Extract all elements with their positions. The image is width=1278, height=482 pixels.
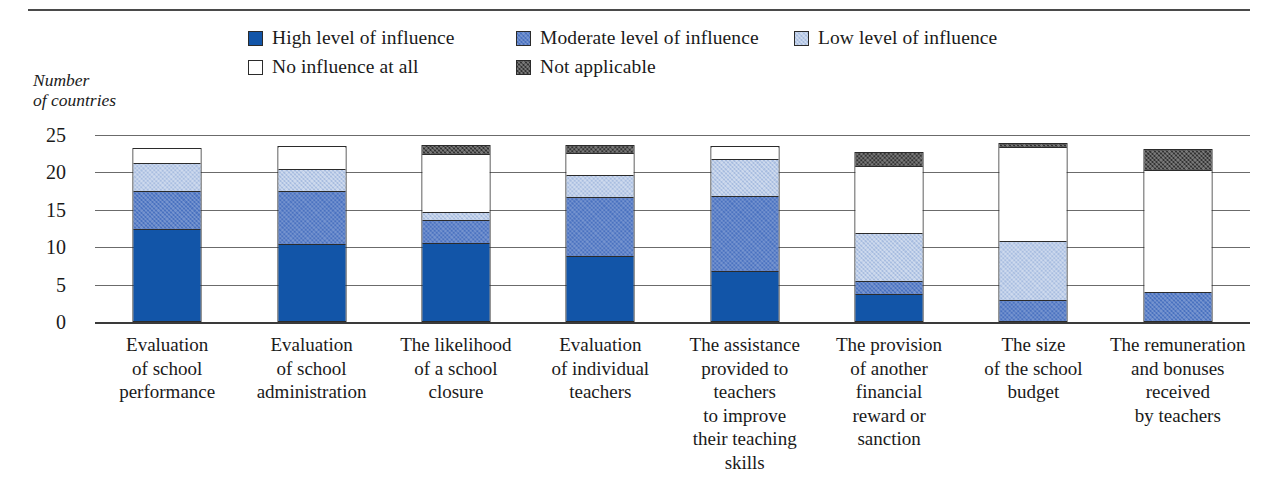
stacked-bar[interactable] [566,145,635,322]
bar-segment-low[interactable] [422,213,489,220]
bar-segment-na[interactable] [1144,150,1211,171]
bar-slot-1 [239,135,383,322]
x-axis-label-line: by teachers [1098,404,1258,428]
x-axis-label-1: Evaluationof schooladministration [231,333,391,404]
bar-segment-none[interactable] [422,155,489,213]
bar-segment-none[interactable] [856,167,923,234]
y-tick-label-15: 15 [20,200,66,220]
bar-slot-0 [95,135,239,322]
bar-segment-high[interactable] [134,230,201,321]
y-tick-label-20: 20 [20,162,66,182]
x-axis-label-line: and bonuses [1098,357,1258,381]
bar-slot-7 [1106,135,1250,322]
x-axis-label-line: The assistance [665,333,825,357]
x-axis-label-line: performance [87,380,247,404]
gridline-0 [95,322,1250,324]
bar-segment-low[interactable] [567,176,634,198]
x-axis-label-line: of another [809,357,969,381]
bar-slot-3 [528,135,672,322]
bar-segment-high[interactable] [856,295,923,321]
bar-segment-none[interactable] [134,149,201,164]
x-axis-label-line: teachers [520,380,680,404]
y-tick-label-10: 10 [20,237,66,257]
x-axis-label-line: of school [87,357,247,381]
x-axis-label-line: of school [231,357,391,381]
bar-segment-moderate[interactable] [1144,293,1211,321]
x-axis-label-5: The provisionof anotherfinancialreward o… [809,333,969,451]
bar-segment-none[interactable] [567,154,634,176]
x-axis-label-line: teachers [665,380,825,404]
bar-segment-high[interactable] [711,272,778,321]
stacked-bar[interactable] [277,146,346,322]
bar-slot-6 [961,135,1105,322]
x-axis-label-line: The remuneration [1098,333,1258,357]
x-axis-labels: Evaluationof schoolperformanceEvaluation… [95,333,1250,473]
y-tick-label-0: 0 [20,312,66,332]
bar-slot-4 [673,135,817,322]
x-axis-label-line: budget [953,380,1113,404]
x-axis-label-line: their teaching [665,427,825,451]
x-axis-label-line: of individual [520,357,680,381]
bar-segment-none[interactable] [711,148,778,161]
x-axis-label-line: closure [376,380,536,404]
bar-segment-moderate[interactable] [134,192,201,229]
stacked-bar[interactable] [710,146,779,322]
bar-segment-na[interactable] [567,146,634,154]
x-axis-label-line: received [1098,380,1258,404]
x-axis-label-7: The remunerationand bonusesreceivedby te… [1098,333,1258,427]
x-axis-label-line: to improve [665,404,825,428]
x-axis-label-6: The sizeof the schoolbudget [953,333,1113,404]
x-axis-label-line: of the school [953,357,1113,381]
y-tick-label-5: 5 [20,275,66,295]
x-axis-label-line: Evaluation [231,333,391,357]
x-axis-label-line: financial [809,380,969,404]
bar-segment-low[interactable] [134,164,201,192]
bar-segment-na[interactable] [856,153,923,167]
x-axis-label-0: Evaluationof schoolperformance [87,333,247,404]
x-axis-label-2: The likelihoodof a schoolclosure [376,333,536,404]
chart-plot-area: 2520151050 Evaluationof schoolperformanc… [0,0,1278,482]
x-axis-label-line: provided to [665,357,825,381]
bar-segment-none[interactable] [1000,148,1067,242]
bar-segment-moderate[interactable] [856,282,923,295]
bar-segment-moderate[interactable] [567,198,634,257]
x-axis-label-line: skills [665,451,825,475]
bar-segment-none[interactable] [278,148,345,170]
x-axis-label-line: The size [953,333,1113,357]
x-axis-label-line: administration [231,380,391,404]
bar-segment-low[interactable] [856,234,923,282]
x-axis-label-line: of a school [376,357,536,381]
bar-segment-moderate[interactable] [711,197,778,273]
stacked-bar[interactable] [999,143,1068,322]
x-axis-label-line: reward or [809,404,969,428]
bar-slot-5 [817,135,961,322]
bar-segment-na[interactable] [422,146,489,155]
stacked-bar[interactable] [855,152,924,322]
bar-segment-moderate[interactable] [1000,301,1067,321]
stacked-bar[interactable] [421,145,490,322]
y-axis-ticks: 2520151050 [20,135,66,322]
bar-group [95,135,1250,322]
x-axis-label-line: Evaluation [520,333,680,357]
x-axis-label-line: The provision [809,333,969,357]
bar-segment-high[interactable] [278,245,345,321]
bar-segment-high[interactable] [567,257,634,321]
bar-segment-low[interactable] [1000,242,1067,301]
bar-segment-moderate[interactable] [278,192,345,245]
x-axis-label-line: sanction [809,427,969,451]
bar-segment-none[interactable] [1144,171,1211,293]
bar-segment-low[interactable] [278,170,345,192]
x-axis-label-4: The assistanceprovided toteachersto impr… [665,333,825,474]
y-tick-label-25: 25 [20,125,66,145]
bar-slot-2 [384,135,528,322]
stacked-bar[interactable] [133,148,202,322]
bar-segment-high[interactable] [422,244,489,321]
x-axis-label-line: Evaluation [87,333,247,357]
bar-segment-low[interactable] [711,160,778,197]
x-axis-label-3: Evaluationof individualteachers [520,333,680,404]
bar-segment-moderate[interactable] [422,221,489,244]
x-axis-label-line: The likelihood [376,333,536,357]
stacked-bar[interactable] [1143,149,1212,322]
